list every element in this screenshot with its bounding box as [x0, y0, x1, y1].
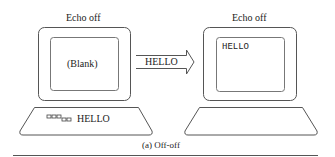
transmission-label: HELLO: [145, 56, 178, 67]
right-terminal: [185, 28, 317, 136]
left-keyboard-text: HELLO: [77, 113, 110, 124]
left-screen-text: (Blank): [67, 58, 98, 69]
diagram-canvas: [0, 0, 335, 157]
right-keyboard: [185, 108, 317, 136]
right-screen-text: HELLO: [222, 42, 249, 52]
left-terminal-title: Echo off: [66, 12, 101, 23]
figure-caption: (a) Off-off: [142, 140, 180, 150]
keyboard-keys-icon: [47, 115, 71, 121]
right-terminal-title: Echo off: [232, 12, 267, 23]
